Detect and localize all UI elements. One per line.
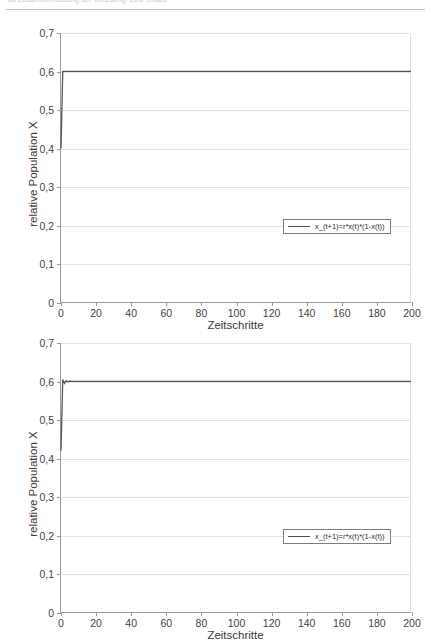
plot-area-2: 00,10,20,30,40,50,60,7 02040608010012014…	[60, 343, 411, 613]
x-tick-mark	[412, 612, 413, 616]
x-tick-label: 40	[125, 617, 137, 629]
x-tick-mark	[96, 302, 97, 306]
legend-label-1: x_(t+1)=r*x(t)*(1-x(t))	[315, 222, 385, 231]
data-line	[61, 71, 411, 148]
y-tick-label: 0,4	[39, 143, 54, 155]
y-tick-label: 0,5	[39, 414, 54, 426]
x-tick-mark	[342, 612, 343, 616]
y-tick-label: 0,1	[39, 568, 54, 580]
x-tick-mark	[131, 302, 132, 306]
y-axis-title-2: relative Population X	[27, 369, 39, 599]
y-tick-label: 0,7	[39, 27, 54, 39]
y-tick-label: 0,4	[39, 453, 54, 465]
x-tick-label: 80	[196, 617, 208, 629]
x-tick-mark	[307, 302, 308, 306]
x-tick-label: 120	[263, 307, 281, 319]
x-tick-label: 100	[228, 307, 246, 319]
legend-1: x_(t+1)=r*x(t)*(1-x(t))	[283, 219, 391, 234]
x-tick-label: 20	[90, 617, 102, 629]
x-tick-mark	[412, 302, 413, 306]
y-tick-label: 0	[48, 607, 54, 619]
y-tick-label: 0,7	[39, 337, 54, 349]
x-tick-mark	[166, 302, 167, 306]
x-tick-mark	[96, 612, 97, 616]
legend-label-2: x_(t+1)=r*x(t)*(1-x(t))	[315, 532, 385, 541]
y-tick-label: 0,3	[39, 181, 54, 193]
document-header-text: bb Zusammenfassung der Vorlesung: Eine C…	[8, 0, 167, 3]
x-tick-mark	[201, 302, 202, 306]
x-tick-label: 200	[403, 307, 421, 319]
y-tick-label: 0,2	[39, 530, 54, 542]
x-axis-title-2: Zeitschritte	[60, 629, 411, 641]
x-tick-label: 160	[333, 617, 351, 629]
x-tick-mark	[131, 612, 132, 616]
document-header-rule	[6, 9, 425, 10]
x-tick-label: 0	[58, 307, 64, 319]
y-tick-label: 0	[48, 297, 54, 309]
y-tick-label: 0,2	[39, 220, 54, 232]
x-tick-mark	[377, 612, 378, 616]
x-tick-mark	[61, 302, 62, 306]
legend-line-icon	[288, 536, 310, 537]
plot-area-1: 00,10,20,30,40,50,60,7 02040608010012014…	[60, 33, 411, 303]
x-tick-mark	[307, 612, 308, 616]
series-line-1	[61, 33, 411, 302]
x-tick-mark	[61, 612, 62, 616]
y-axis-title-1: relative Population X	[27, 59, 39, 289]
x-tick-mark	[272, 612, 273, 616]
y-tick-label: 0,6	[39, 376, 54, 388]
x-tick-mark	[237, 612, 238, 616]
legend-2: x_(t+1)=r*x(t)*(1-x(t))	[283, 529, 391, 544]
x-tick-mark	[272, 302, 273, 306]
x-tick-mark	[237, 302, 238, 306]
x-tick-label: 140	[298, 307, 316, 319]
x-tick-label: 40	[125, 307, 137, 319]
legend-line-icon	[288, 226, 310, 227]
y-tick-label: 0,1	[39, 258, 54, 270]
x-tick-mark	[201, 612, 202, 616]
x-tick-mark	[342, 302, 343, 306]
x-tick-label: 60	[160, 307, 172, 319]
document-header: bb Zusammenfassung der Vorlesung: Eine C…	[0, 0, 431, 12]
x-tick-mark	[377, 302, 378, 306]
x-tick-label: 200	[403, 617, 421, 629]
logistic-map-chart-2: 00,10,20,30,40,50,60,7 02040608010012014…	[0, 326, 431, 636]
y-tick-label: 0,6	[39, 66, 54, 78]
logistic-map-chart-1: 00,10,20,30,40,50,60,7 02040608010012014…	[0, 16, 431, 326]
x-tick-label: 80	[196, 307, 208, 319]
x-tick-mark	[166, 612, 167, 616]
data-line	[61, 380, 411, 451]
x-tick-label: 60	[160, 617, 172, 629]
x-tick-label: 180	[368, 307, 386, 319]
x-tick-label: 180	[368, 617, 386, 629]
y-tick-label: 0,5	[39, 104, 54, 116]
series-line-2	[61, 343, 411, 612]
x-tick-label: 0	[58, 617, 64, 629]
x-tick-label: 20	[90, 307, 102, 319]
x-tick-label: 160	[333, 307, 351, 319]
x-tick-label: 140	[298, 617, 316, 629]
x-tick-label: 100	[228, 617, 246, 629]
y-tick-label: 0,3	[39, 491, 54, 503]
x-tick-label: 120	[263, 617, 281, 629]
